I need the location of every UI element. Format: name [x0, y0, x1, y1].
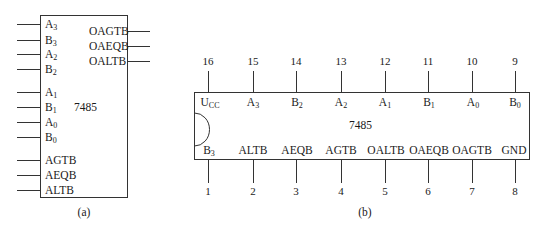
pin-label-agtb: AGTB — [325, 144, 356, 156]
caption-b: (b) — [358, 206, 371, 218]
input-label-altb: ALTB — [45, 184, 74, 196]
input-label-b2: B2 — [45, 63, 57, 75]
pin-label-b1: B1 — [423, 96, 435, 108]
pin-label-b2: B2 — [291, 96, 303, 108]
chip-b-name: 7485 — [349, 119, 372, 131]
output-label-oaltb: OALTB — [89, 55, 126, 67]
pin-label-a3: A3 — [247, 96, 259, 108]
input-label-aeqb: AEQB — [45, 169, 76, 181]
input-label-a3: A3 — [45, 18, 57, 30]
pin-number-2: 2 — [250, 185, 256, 197]
pin-label-a2: A2 — [335, 96, 347, 108]
output-label-oagtb: OAGTB — [89, 25, 129, 37]
input-label-a0: A0 — [45, 116, 57, 128]
pin-number-11: 11 — [423, 55, 434, 67]
pin-number-12: 12 — [380, 55, 391, 67]
pin-label-altb: ALTB — [239, 144, 268, 156]
input-label-b1: B1 — [45, 101, 57, 113]
chip-a-name: 7485 — [74, 101, 97, 113]
pin-number-3: 3 — [293, 185, 299, 197]
output-label-oaeqb: OAEQB — [89, 40, 129, 52]
pin-number-15: 15 — [248, 55, 259, 67]
notch-icon — [195, 113, 210, 146]
pin-label-oaeqb: OAEQB — [409, 144, 449, 156]
pin-number-6: 6 — [425, 185, 431, 197]
pin-label-oagtb: OAGTB — [452, 144, 492, 156]
pin-number-14: 14 — [291, 55, 302, 67]
pin-number-13: 13 — [336, 55, 347, 67]
pin-label-gnd: GND — [502, 144, 527, 156]
pin-label-ucc: UCC — [201, 96, 220, 108]
diagram-lines — [0, 0, 546, 233]
pin-number-4: 4 — [338, 185, 344, 197]
pin-label-b0: B0 — [509, 96, 521, 108]
pin-label-oaltb: OALTB — [367, 144, 404, 156]
input-label-b0: B0 — [45, 131, 57, 143]
input-label-b3: B3 — [45, 34, 57, 46]
pin-label-a0: A0 — [467, 96, 479, 108]
pin-number-16: 16 — [203, 55, 214, 67]
input-label-agtb: AGTB — [45, 154, 76, 166]
caption-a: (a) — [78, 206, 91, 218]
input-label-a1: A1 — [45, 86, 57, 98]
pin-number-5: 5 — [382, 185, 388, 197]
input-label-a2: A2 — [45, 48, 57, 60]
pin-label-a1: A1 — [379, 96, 391, 108]
pin-label-aeqb: AEQB — [281, 144, 312, 156]
pin-label-b3: B3 — [203, 144, 215, 156]
pin-number-9: 9 — [512, 55, 518, 67]
pin-number-8: 8 — [512, 185, 518, 197]
pin-number-10: 10 — [467, 55, 478, 67]
pin-number-1: 1 — [205, 185, 211, 197]
pin-number-7: 7 — [469, 185, 475, 197]
